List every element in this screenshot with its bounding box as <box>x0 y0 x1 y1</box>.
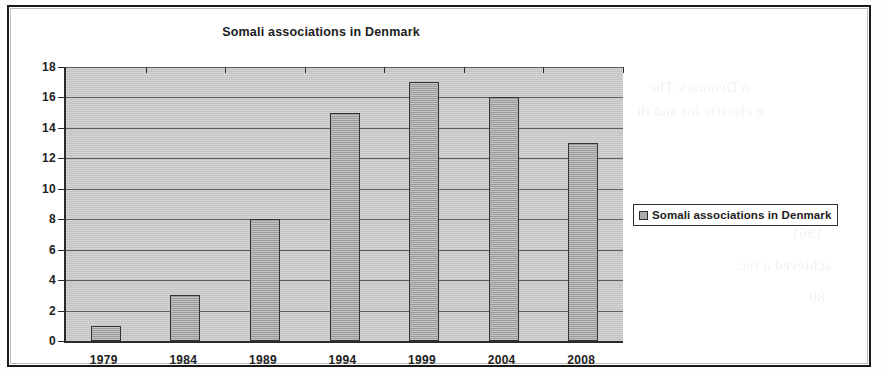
y-axis-tick-label: 6 <box>22 243 56 257</box>
bar[interactable] <box>568 143 598 341</box>
x-axis-tick-label: 1979 <box>69 353 139 367</box>
bar-chart: Somali associations in Denmark 024681012… <box>21 16 875 370</box>
y-axis-tick-mark <box>58 280 64 281</box>
bar[interactable] <box>250 219 280 341</box>
x-axis-tick-label: 2004 <box>467 353 537 367</box>
y-axis-tick-mark <box>58 189 64 190</box>
chart-title: Somali associations in Denmark <box>21 25 621 39</box>
y-axis-tick-label: 2 <box>22 304 56 318</box>
chart-legend[interactable]: Somali associations in Denmark <box>633 204 838 226</box>
x-axis-tick-label: 1984 <box>148 353 218 367</box>
y-axis-tick-label: 10 <box>22 182 56 196</box>
y-axis-tick-label: 8 <box>22 212 56 226</box>
x-axis-tick-mark <box>225 67 226 73</box>
y-axis-tick-mark <box>58 158 64 159</box>
gridline <box>66 97 623 98</box>
x-axis-tick-mark <box>623 67 624 73</box>
y-axis-tick-label: 12 <box>22 151 56 165</box>
page-border-frame: n Denmark The e electric lor and th 1961… <box>7 5 871 367</box>
bar[interactable] <box>489 97 519 341</box>
x-axis-tick-mark <box>305 67 306 73</box>
square-swatch-icon <box>639 211 648 220</box>
bar[interactable] <box>91 326 121 341</box>
x-axis-tick-mark <box>543 67 544 73</box>
bar[interactable] <box>170 295 200 341</box>
y-axis-tick-mark <box>58 128 64 129</box>
y-axis-tick-mark <box>58 97 64 98</box>
y-axis-tick-mark <box>58 311 64 312</box>
x-axis-tick-label: 1994 <box>308 353 378 367</box>
y-axis-tick-label: 18 <box>22 60 56 74</box>
x-axis-tick-label: 1989 <box>228 353 298 367</box>
y-axis-tick-mark <box>58 67 64 68</box>
y-axis-tick-label: 4 <box>22 273 56 287</box>
bar[interactable] <box>409 82 439 341</box>
y-axis-tick-mark <box>58 250 64 251</box>
gridline <box>66 67 623 68</box>
y-axis-tick-mark <box>58 219 64 220</box>
plot-area <box>64 67 623 343</box>
y-axis-tick-mark <box>58 341 64 342</box>
x-axis-tick-mark <box>384 67 385 73</box>
y-axis-tick-label: 0 <box>22 334 56 348</box>
x-axis-tick-label: 1999 <box>387 353 457 367</box>
x-axis-tick-mark <box>464 67 465 73</box>
legend-label: Somali associations in Denmark <box>652 209 831 221</box>
y-axis-tick-label: 16 <box>22 90 56 104</box>
scanned-page: n Denmark The e electric lor and th 1961… <box>0 0 882 376</box>
x-axis-tick-label: 2008 <box>546 353 616 367</box>
y-axis-tick-label: 14 <box>22 121 56 135</box>
bar[interactable] <box>330 113 360 341</box>
x-axis-tick-mark <box>146 67 147 73</box>
